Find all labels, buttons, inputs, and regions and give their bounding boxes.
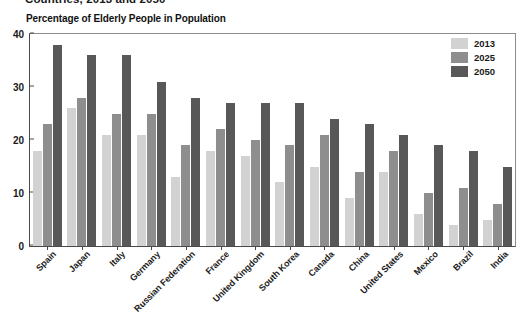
- bar: [379, 172, 388, 246]
- x-axis-tick-label: Canada: [306, 249, 336, 279]
- chart-title: Countries, 2013 and 2050: [25, 0, 165, 5]
- bar-group: [99, 34, 134, 246]
- bar: [53, 45, 62, 246]
- bar: [483, 220, 492, 247]
- y-axis-tick-label: 40: [13, 29, 24, 40]
- legend-label: 2050: [474, 67, 495, 77]
- bar: [33, 151, 42, 246]
- x-axis-labels: SpainJapanItalyGermanyRussian Federation…: [29, 249, 516, 323]
- bar: [77, 98, 86, 246]
- bar: [261, 103, 270, 246]
- bar-group: [65, 34, 100, 246]
- bar-group: [169, 34, 204, 246]
- legend-label: 2025: [474, 53, 495, 63]
- x-axis-tick-label: Russian Federation: [132, 249, 197, 314]
- y-axis-tick-label: 20: [13, 135, 24, 146]
- legend-item[interactable]: 2050: [451, 66, 495, 77]
- x-axis-tick-label: China: [346, 249, 370, 273]
- bar: [493, 204, 502, 246]
- bar: [389, 151, 398, 246]
- bar: [206, 151, 215, 246]
- bar: [424, 193, 433, 246]
- bar-group: [273, 34, 308, 246]
- bar: [226, 103, 235, 246]
- bar: [171, 177, 180, 246]
- legend-label: 2013: [474, 39, 495, 49]
- bar: [216, 129, 225, 246]
- bar: [469, 151, 478, 246]
- x-axis-tick-label: Mexico: [412, 249, 440, 277]
- bar: [122, 55, 131, 246]
- x-axis-tick-label: Spain: [34, 249, 58, 273]
- plot-area: 010203040: [29, 33, 516, 247]
- bar-group: [238, 34, 273, 246]
- bar-group: [411, 34, 446, 246]
- bar: [43, 124, 52, 246]
- bar-group: [30, 34, 65, 246]
- bar: [157, 82, 166, 246]
- bar: [503, 167, 512, 247]
- x-axis-tick-label: Italy: [108, 249, 127, 268]
- bar-group: [134, 34, 169, 246]
- bar: [414, 214, 423, 246]
- bar: [449, 225, 458, 246]
- elderly-population-bar-chart: Countries, 2013 and 2050 Percentage of E…: [0, 0, 523, 323]
- bar-group: [376, 34, 411, 246]
- bar: [434, 145, 443, 246]
- bar: [275, 182, 284, 246]
- legend-swatch: [451, 38, 468, 49]
- x-axis-tick-label: Germany: [128, 249, 162, 283]
- y-axis-tick-label: 0: [18, 241, 24, 252]
- bar: [251, 140, 260, 246]
- bar-group: [342, 34, 377, 246]
- bar: [112, 114, 121, 247]
- legend: 201320252050: [451, 33, 495, 77]
- bar: [295, 103, 304, 246]
- bar: [355, 172, 364, 246]
- bar: [181, 145, 190, 246]
- bar: [459, 188, 468, 246]
- bar: [285, 145, 294, 246]
- bars-layer: [30, 34, 515, 246]
- bar: [310, 167, 319, 247]
- bar-group: [307, 34, 342, 246]
- bar: [365, 124, 374, 246]
- bar: [147, 114, 156, 247]
- legend-swatch: [451, 66, 468, 77]
- x-axis-tick-label: India: [488, 249, 510, 271]
- y-axis-tick-label: 10: [13, 188, 24, 199]
- bar: [345, 198, 354, 246]
- legend-swatch: [451, 52, 468, 63]
- bar: [191, 98, 200, 246]
- x-axis-tick-label: Japan: [67, 249, 92, 274]
- bar-group: [203, 34, 238, 246]
- y-axis-tick-label: 30: [13, 82, 24, 93]
- legend-item[interactable]: 2025: [451, 52, 495, 63]
- x-axis-tick-label: Brazil: [451, 249, 475, 273]
- bar: [67, 108, 76, 246]
- bar: [87, 55, 96, 246]
- legend-item[interactable]: 2013: [451, 38, 495, 49]
- bar: [241, 156, 250, 246]
- bar: [320, 135, 329, 246]
- bar: [399, 135, 408, 246]
- chart-subtitle: Percentage of Elderly People in Populati…: [26, 13, 226, 24]
- bar: [137, 135, 146, 246]
- x-axis-tick-label: France: [204, 249, 232, 277]
- bar: [102, 135, 111, 246]
- bar: [330, 119, 339, 246]
